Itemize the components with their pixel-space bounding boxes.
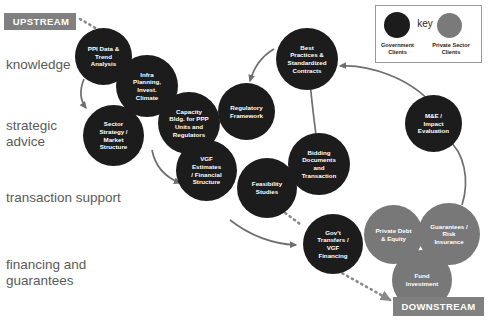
dotted-flow-downstream [333, 268, 390, 300]
arrow-guarantees-to-me [448, 140, 466, 205]
node-best-practices-standardized-contracts[interactable]: Best Practices & Standardized Contracts [276, 28, 338, 90]
legend-label-private-sector: Private Sector Clients [428, 42, 474, 56]
upstream-banner: UPSTREAM [4, 13, 76, 30]
arrow-best-practices-to-regulatory [250, 49, 274, 81]
node-bidding-documents-and-transaction[interactable]: Bidding Documents and Transaction [288, 133, 350, 195]
node-regulatory-framework[interactable]: Regulatory Framework [218, 83, 275, 140]
row-label-strategic-advice: strategic advice [6, 118, 57, 150]
legend-title: key [412, 18, 438, 29]
node-govt-transfers-vgf-financing[interactable]: Gov't Transfers / VGF Financing [303, 214, 363, 274]
node-sector-strategy-market-structure[interactable]: Sector Strategy / Market Structure [83, 105, 144, 166]
legend-swatch-private-sector [437, 13, 462, 38]
row-label-transaction-support: transaction support [6, 190, 121, 206]
downstream-banner: DOWNSTREAM [393, 297, 484, 316]
arrow-feasibility-to-govt-transfers [230, 220, 296, 245]
node-vgf-estimates-financial-structure[interactable]: VGF Estimates / Financial Structure [176, 140, 237, 201]
node-me-impact-evaluation[interactable]: M&E / Impact Evaluation [405, 95, 462, 152]
legend-swatch-government [384, 12, 410, 38]
legend-label-government: Government Clients [375, 42, 420, 56]
diagram-canvas: UPSTREAM knowledge strategic advice tran… [0, 0, 488, 324]
arrow-ppi-to-sector [81, 79, 86, 108]
row-label-financing-and-guarantees: financing and guarantees [6, 257, 86, 289]
row-label-knowledge: knowledge [6, 57, 71, 73]
